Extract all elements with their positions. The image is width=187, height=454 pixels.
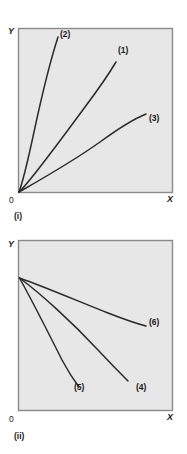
curve-label-4-ii: (4): [136, 383, 146, 392]
y-axis-label-ii: Y: [8, 240, 14, 249]
figure-ii: Y X 0 (ii) (6) (5) (4): [0, 227, 187, 454]
origin-label-ii: 0: [9, 415, 14, 424]
curve-label-6-ii: (6): [149, 318, 159, 327]
plot-panel-i: [19, 29, 173, 193]
panel-label-i: (i): [14, 212, 22, 221]
figure-i: Y X 0 (i) (2) (1) (3): [0, 0, 187, 227]
panel-label-ii: (ii): [14, 432, 24, 441]
curve-label-2-i: (2): [60, 30, 70, 39]
curve-label-3-i: (3): [149, 114, 159, 123]
x-axis-label-i: X: [167, 195, 173, 204]
plot-area-ii: [0, 227, 187, 454]
x-axis-label-ii: X: [167, 413, 173, 422]
curve-label-1-i: (1): [118, 46, 128, 55]
origin-label-i: 0: [9, 196, 14, 205]
curve-label-5-ii: (5): [74, 383, 84, 392]
y-axis-label-i: Y: [8, 27, 14, 36]
